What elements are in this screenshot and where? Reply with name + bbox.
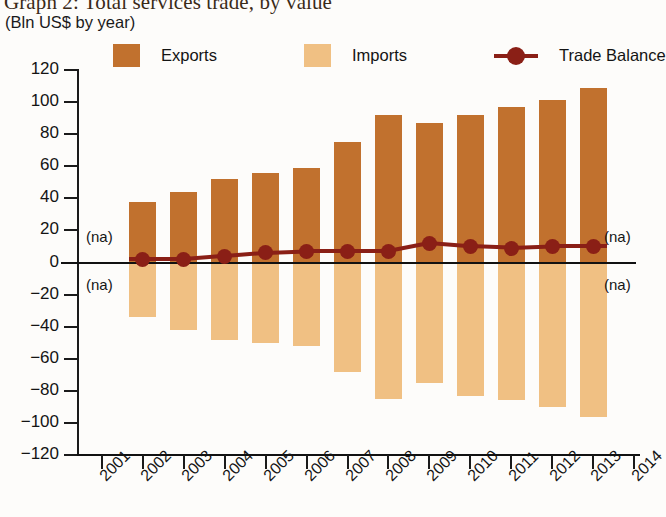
trade-balance-point-2011[interactable]: [504, 241, 519, 256]
y-tick-label--20: −20: [0, 284, 59, 304]
y-tick-label--120: −120: [0, 444, 59, 464]
trade-balance-point-2012[interactable]: [545, 239, 560, 254]
y-tick-100: [64, 101, 78, 103]
y-tick--120: [64, 454, 78, 456]
x-tick-label-2004: 2004: [219, 447, 257, 485]
bar-import-2007[interactable]: [334, 263, 361, 372]
y-tick-label-80: 80: [0, 123, 59, 143]
y-tick-label-20: 20: [0, 219, 59, 239]
x-tick-label-2009: 2009: [423, 447, 461, 485]
y-tick-label-120: 120: [0, 59, 59, 79]
y-tick--40: [64, 326, 78, 328]
x-tick-label-2005: 2005: [260, 447, 298, 485]
y-tick-120: [64, 69, 78, 71]
y-tick--100: [64, 422, 78, 424]
x-tick-label-2012: 2012: [546, 447, 584, 485]
y-tick--80: [64, 390, 78, 392]
trade-balance-point-2009[interactable]: [422, 236, 437, 251]
bar-import-2004[interactable]: [211, 263, 238, 340]
bar-import-2013[interactable]: [580, 263, 607, 417]
bar-import-2011[interactable]: [498, 263, 525, 401]
na-annotation-right-above-zero: (na): [604, 228, 631, 245]
y-tick-label-60: 60: [0, 155, 59, 175]
trade-balance-point-2004[interactable]: [217, 249, 232, 264]
y-tick--60: [64, 358, 78, 360]
x-tick-label-2002: 2002: [137, 447, 175, 485]
y-tick-20: [64, 229, 78, 231]
y-tick-label-0: 0: [0, 252, 59, 272]
bar-export-2013[interactable]: [580, 88, 607, 263]
x-tick-label-2014: 2014: [628, 447, 666, 485]
bar-import-2010[interactable]: [457, 263, 484, 396]
x-tick-label-2013: 2013: [587, 447, 625, 485]
x-tick-label-2006: 2006: [301, 447, 339, 485]
y-tick-40: [64, 197, 78, 199]
bar-import-2005[interactable]: [252, 263, 279, 343]
x-tick-label-2008: 2008: [382, 447, 420, 485]
trade-balance-point-2006[interactable]: [299, 244, 314, 259]
trade-balance-point-2010[interactable]: [463, 239, 478, 254]
x-tick-label-2001: 2001: [96, 447, 134, 485]
na-annotation-left-above-zero: (na): [86, 228, 113, 245]
y-tick-80: [64, 133, 78, 135]
y-tick-label-100: 100: [0, 91, 59, 111]
trade-balance-point-2007[interactable]: [340, 244, 355, 259]
x-tick-label-2007: 2007: [342, 447, 380, 485]
y-tick-label--40: −40: [0, 316, 59, 336]
y-tick-label--60: −60: [0, 348, 59, 368]
trade-balance-point-2013[interactable]: [586, 239, 601, 254]
bar-export-2008[interactable]: [375, 115, 402, 263]
bar-import-2008[interactable]: [375, 263, 402, 399]
na-annotation-right-below-zero: (na): [604, 276, 631, 293]
bar-import-2002[interactable]: [129, 263, 156, 318]
trade-balance-point-2008[interactable]: [381, 244, 396, 259]
bar-import-2009[interactable]: [416, 263, 443, 383]
na-annotation-left-below-zero: (na): [86, 276, 113, 293]
bar-import-2003[interactable]: [170, 263, 197, 330]
y-tick-label-40: 40: [0, 187, 59, 207]
y-tick-60: [64, 165, 78, 167]
bar-import-2006[interactable]: [293, 263, 320, 346]
y-tick-label--80: −80: [0, 380, 59, 400]
y-tick-label--100: −100: [0, 412, 59, 432]
bar-import-2012[interactable]: [539, 263, 566, 407]
y-tick--20: [64, 294, 78, 296]
bar-export-2011[interactable]: [498, 107, 525, 263]
x-tick-label-2010: 2010: [464, 447, 502, 485]
x-tick-label-2003: 2003: [178, 447, 216, 485]
